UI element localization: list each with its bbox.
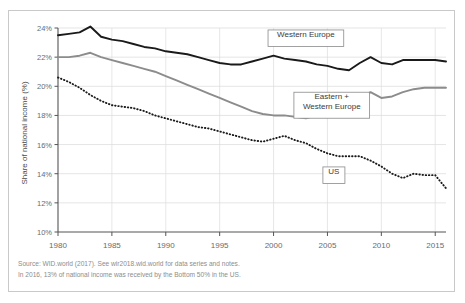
annotation-label-western-europe: Western Europe — [277, 30, 335, 39]
annotation-label-us: US — [328, 167, 339, 176]
x-tick-label: 1995 — [211, 241, 229, 250]
series-line-western-europe — [58, 27, 446, 71]
annotation-us: US — [323, 167, 345, 184]
annotation-label-eastern-western-europe: Eastern + — [315, 92, 350, 101]
y-tick-label: 12% — [37, 199, 52, 208]
x-tick-label: 1980 — [49, 241, 67, 250]
y-tick-label: 20% — [37, 82, 52, 91]
x-tick-label: 2000 — [265, 241, 283, 250]
vertical-gridlines — [112, 28, 435, 232]
x-tick-label: 2005 — [319, 241, 337, 250]
data-series-layer — [58, 27, 446, 189]
footer-block: Source: WID.world (2017). See wir2018.wi… — [18, 258, 438, 280]
series-line-us — [58, 78, 446, 189]
gridlines — [58, 28, 446, 203]
footer-note-line: In 2016, 13% of national income was rece… — [18, 269, 438, 280]
x-axis-ticks: 19801985199019952000200520102015 — [49, 232, 445, 250]
annotation-label-eastern-western-europe: Western Europe — [303, 102, 361, 111]
y-tick-label: 10% — [37, 228, 52, 237]
chart-figure: Share of national income (%) 10%12%14%16… — [0, 0, 465, 303]
y-axis-title: Share of national income (%) — [20, 81, 29, 185]
y-tick-label: 18% — [37, 111, 52, 120]
x-tick-label: 2015 — [426, 241, 444, 250]
x-tick-label: 1990 — [157, 241, 175, 250]
annotation-western-europe: Western Europe — [268, 30, 344, 47]
y-tick-label: 22% — [37, 53, 52, 62]
annotation-eastern-western-europe: Eastern +Western Europe — [294, 92, 370, 118]
y-tick-label: 14% — [37, 170, 52, 179]
y-tick-label: 24% — [37, 24, 52, 33]
x-tick-label: 2010 — [372, 241, 390, 250]
y-axis-ticks: 10%12%14%16%18%20%22%24% — [37, 24, 58, 237]
footer-source-line: Source: WID.world (2017). See wir2018.wi… — [18, 258, 438, 269]
x-tick-label: 1985 — [103, 241, 121, 250]
y-tick-label: 16% — [37, 141, 52, 150]
series-line-eastern-western-europe — [58, 53, 446, 119]
annotation-layer: Western EuropeEastern +Western EuropeUS — [268, 30, 370, 183]
